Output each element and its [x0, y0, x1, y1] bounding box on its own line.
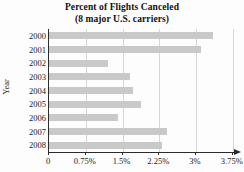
x-tick-mark	[48, 152, 49, 155]
bar	[49, 101, 141, 108]
bar-row	[49, 97, 141, 111]
x-tick-mark	[195, 152, 196, 155]
chart-title: Percent of Flights Canceled (8 major U.S…	[0, 2, 244, 25]
y-tick-label: 2006	[2, 113, 46, 123]
x-tick-label: 0.75%	[74, 156, 96, 166]
x-tick-mark	[122, 152, 123, 155]
bar-row	[49, 84, 133, 98]
x-axis-arrow-icon	[234, 149, 241, 155]
y-tick-label: 2001	[2, 45, 46, 55]
bar	[49, 114, 118, 121]
bar	[49, 46, 201, 53]
bar-row	[49, 70, 130, 84]
x-tick-label: 3%	[189, 156, 200, 166]
gridline	[233, 29, 234, 152]
x-tick-mark	[158, 152, 159, 155]
bar-row	[49, 56, 108, 70]
y-axis-tick-labels: 200020012002200320042005200620072008	[0, 29, 46, 152]
bar-chart: Percent of Flights Canceled (8 major U.S…	[0, 0, 244, 172]
y-tick-label: 2008	[2, 140, 46, 150]
y-tick-label: 2007	[2, 127, 46, 137]
bar	[49, 60, 108, 67]
x-tick-label: 0	[46, 156, 50, 166]
y-tick-label: 2004	[2, 86, 46, 96]
chart-subtitle: (8 major U.S. carriers)	[0, 14, 244, 26]
x-tick-mark	[232, 152, 233, 155]
bar-row	[49, 29, 213, 43]
bar	[49, 73, 130, 80]
bar	[49, 142, 162, 149]
bar-row	[49, 138, 162, 152]
bar-row	[49, 111, 118, 125]
bar-row	[49, 43, 201, 57]
x-tick-label: 3.75%	[221, 156, 243, 166]
bar	[49, 128, 167, 135]
bar	[49, 87, 133, 94]
y-tick-label: 2002	[2, 58, 46, 68]
x-axis-line	[48, 152, 236, 153]
plot-area	[48, 29, 244, 152]
x-tick-label: 2.25%	[147, 156, 169, 166]
y-tick-label: 2000	[2, 31, 46, 41]
bar-row	[49, 125, 167, 139]
y-tick-label: 2005	[2, 99, 46, 109]
bar	[49, 32, 213, 39]
x-tick-mark	[85, 152, 86, 155]
chart-title-main: Percent of Flights Canceled	[65, 2, 179, 12]
y-tick-label: 2003	[2, 72, 46, 82]
x-tick-label: 1.5%	[113, 156, 131, 166]
